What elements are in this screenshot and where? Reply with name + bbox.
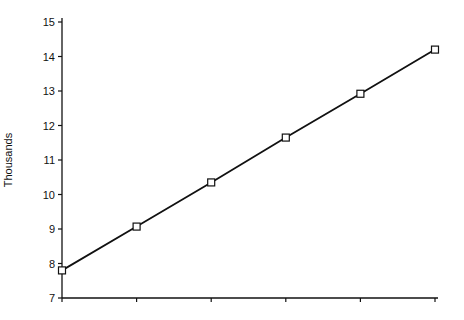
y-tick-label: 8 [49, 258, 55, 270]
y-tick-label: 7 [49, 292, 55, 304]
square-marker-icon [208, 179, 215, 186]
y-tick-label: 12 [43, 120, 55, 132]
y-tick-label: 11 [44, 154, 55, 166]
line-chart: 789101112131415 [0, 0, 464, 320]
square-marker-icon [59, 267, 66, 274]
y-tick-label: 13 [43, 85, 55, 97]
y-tick-label: 15 [43, 16, 55, 28]
y-axis: 789101112131415 [43, 16, 62, 304]
y-tick-label: 9 [49, 223, 55, 235]
y-axis-label: Thousands [2, 130, 16, 190]
series-line [62, 50, 435, 271]
square-marker-icon [282, 134, 289, 141]
x-axis [62, 298, 438, 302]
square-marker-icon [357, 90, 364, 97]
data-series [59, 46, 439, 274]
square-marker-icon [432, 46, 439, 53]
square-marker-icon [133, 223, 140, 230]
y-tick-label: 14 [43, 51, 55, 63]
y-tick-label: 10 [43, 189, 55, 201]
